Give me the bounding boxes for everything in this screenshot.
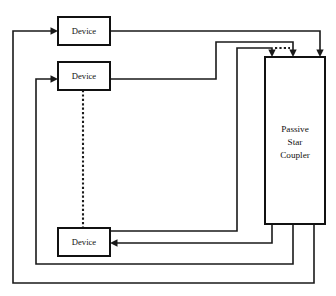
network-diagram-canvas: Passive Star Coupler Device Device Devic… [0, 0, 336, 296]
device-1[interactable]: Device [58, 17, 110, 45]
wire-coupler-out-to-device3 [114, 224, 272, 243]
coupler-label-line-3: Coupler [280, 150, 310, 160]
arrowhead-into-device-3 [110, 239, 118, 246]
coupler-label-line-2: Star [288, 137, 303, 147]
arrowhead-input-from-device-1 [316, 50, 323, 58]
device-3[interactable]: Device [58, 228, 110, 256]
arrowhead-input-from-device-3 [268, 50, 275, 58]
device-2-label: Device [72, 71, 97, 81]
arrowhead-into-device-1 [51, 27, 59, 34]
device-3-label: Device [72, 237, 97, 247]
arrowhead-into-device-2 [51, 75, 59, 82]
coupler-label-line-1: Passive [281, 124, 309, 134]
passive-star-coupler[interactable]: Passive Star Coupler [265, 57, 325, 224]
coupler-input-arrowheads [268, 50, 323, 58]
arrowhead-input-from-device-2 [289, 50, 296, 58]
wire-device3-out-to-coupler [110, 48, 272, 231]
network-diagram: Passive Star Coupler Device Device Devic… [0, 0, 336, 296]
device-2[interactable]: Device [58, 62, 110, 90]
device-1-label: Device [72, 26, 97, 36]
